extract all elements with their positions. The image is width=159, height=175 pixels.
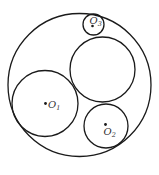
outer-circle bbox=[8, 14, 151, 157]
circles-diagram: O1 O2 O3 bbox=[0, 0, 159, 175]
label-o1: O1 bbox=[48, 99, 60, 112]
diagram-canvas: O1 O2 O3 bbox=[0, 0, 159, 175]
center-point-o1 bbox=[44, 102, 47, 105]
middle-circle bbox=[70, 37, 135, 102]
label-o2: O2 bbox=[104, 126, 116, 139]
